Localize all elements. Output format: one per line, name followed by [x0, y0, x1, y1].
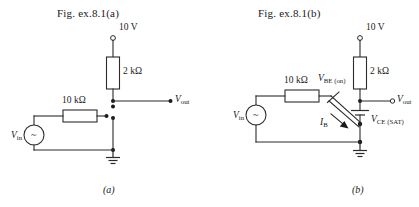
panel-b-base-current-label: IB: [320, 118, 328, 128]
panel-a-supply-label: 10 V: [119, 23, 138, 33]
panel-b-input-source-label-sub: in: [239, 114, 244, 121]
panel-a-base-resistor-body: [63, 110, 97, 122]
panel-a-input-source-label-sub: in: [17, 134, 22, 141]
panel-a-input-source-label: Vin: [11, 131, 22, 141]
panel-b-output-label-sub: out: [403, 98, 412, 105]
panel-b-vbe-label-sub: BE (on): [324, 77, 346, 84]
panel-a-output-label-sub: out: [181, 98, 190, 105]
panel-b-output-terminal: [390, 99, 394, 103]
panel-a-open-terminal-upper: [111, 105, 115, 109]
panel-b-vbe-diagonal-upper: [331, 96, 361, 123]
panel-b-supply-terminal: [358, 36, 363, 41]
panel-b-input-source-label-v: V: [233, 110, 239, 120]
panel-b-vce-label-v: V: [371, 114, 377, 124]
panel-b-ac-source-glyph: ~: [253, 109, 258, 120]
panel-a-collector-resistor-label: 2 kΩ: [123, 67, 142, 77]
panel-b-vce-label-sub: CE (SAT): [377, 118, 404, 125]
panel-a-base-resistor-label: 10 kΩ: [62, 96, 86, 106]
panel-b-collector-resistor-label: 2 kΩ: [370, 67, 389, 77]
panel-b-schematic: [246, 36, 395, 157]
panel-b-vbe-label-v: V: [318, 73, 324, 83]
panel-a-schematic: [24, 36, 173, 164]
panel-b-collector-resistor-body: [354, 57, 367, 89]
panel-b-vbe-label: VBE (on): [318, 74, 346, 84]
panel-b-base-resistor-body: [285, 90, 319, 102]
panel-a-supply-terminal: [111, 36, 116, 41]
panel-a-ac-source-glyph: ~: [31, 129, 36, 140]
panel-b-output-label: Vout: [397, 95, 412, 105]
panel-b-supply-label: 10 V: [366, 23, 385, 33]
panel-a-base-open-terminal: [105, 114, 109, 118]
panel-b-base-current-label-sub: B: [323, 121, 328, 128]
panel-b-caption: (b): [352, 184, 364, 195]
figure-root: Fig. ex.8.1(a) Fig. ex.8.1(b): [0, 0, 419, 207]
panel-a-input-source-label-v: V: [11, 130, 17, 140]
panel-b-base-resistor-label: 10 kΩ: [284, 76, 308, 86]
panel-b-vce-label: VCE (SAT): [371, 115, 404, 125]
panel-b-input-source-label: Vin: [233, 111, 244, 121]
panel-a-collector-resistor-body: [107, 57, 120, 89]
panel-a-output-terminal: [169, 99, 173, 103]
panel-b-output-label-v: V: [397, 94, 403, 104]
panel-a-output-label: Vout: [175, 95, 190, 105]
panel-a-caption: (a): [103, 184, 115, 195]
panel-a-output-label-v: V: [175, 94, 181, 104]
